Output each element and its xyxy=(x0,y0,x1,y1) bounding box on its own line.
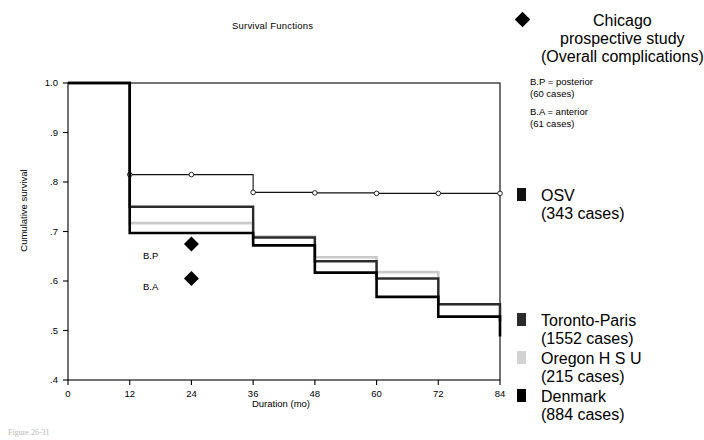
legend-oregon-line2: (215 cases) xyxy=(541,368,641,386)
legend-toronto-line2: (1552 cases) xyxy=(541,330,636,348)
legend-item-denmark: Denmark (884 cases) xyxy=(517,388,625,424)
series-oregon-h-s-u xyxy=(68,83,500,321)
square-swatch-icon xyxy=(517,388,541,402)
bp-definition-line2: (60 cases) xyxy=(530,88,593,100)
legend-denmark-line1: Denmark xyxy=(541,388,625,406)
legend-oregon-line1: Oregon H S U xyxy=(541,350,641,368)
y-tick-p9: .9 xyxy=(32,127,58,138)
diamond-icon xyxy=(517,12,541,25)
bp-definition-line1: B.P = posterior xyxy=(530,76,593,88)
square-swatch-icon xyxy=(517,312,541,326)
y-tick-p4: .4 xyxy=(32,374,58,385)
legend-item-chicago: Chicago prospective study (Overall compl… xyxy=(517,12,704,66)
x-tick-0: 0 xyxy=(55,388,81,399)
legend-item-toronto-paris: Toronto-Paris (1552 cases) xyxy=(517,312,636,348)
figure-caption: Figure 26-31 xyxy=(8,428,50,437)
osv-point-marker xyxy=(374,191,379,196)
legend-item-oregon-hsu: Oregon H S U (215 cases) xyxy=(517,350,641,386)
osv-point-marker xyxy=(189,172,194,177)
legend-chicago-line3: (Overall complications) xyxy=(541,48,704,66)
series-denmark xyxy=(68,83,500,336)
legend-ba-definition: B.A = anterior (61 cases) xyxy=(530,106,588,129)
legend-toronto-line1: Toronto-Paris xyxy=(541,312,636,330)
ba-definition-line2: (61 cases) xyxy=(530,118,588,130)
legend-bp-definition: B.P = posterior (60 cases) xyxy=(530,76,593,99)
series-osv xyxy=(68,83,500,193)
y-tick-1p0: 1.0 xyxy=(32,77,58,88)
x-tick-24: 24 xyxy=(178,388,204,399)
x-tick-72: 72 xyxy=(425,388,451,399)
y-tick-p6: .6 xyxy=(32,275,58,286)
osv-point-marker xyxy=(436,191,441,196)
x-tick-84: 84 xyxy=(487,388,513,399)
legend-osv-line2: (343 cases) xyxy=(541,205,625,223)
y-tick-p8: .8 xyxy=(32,176,58,187)
legend-osv-line1: OSV xyxy=(541,187,625,205)
osv-point-marker xyxy=(498,191,503,196)
y-tick-p5: .5 xyxy=(32,325,58,336)
ba-annotation-label: B.A xyxy=(143,281,158,292)
legend-chicago-line2: prospective study xyxy=(541,30,704,48)
ba-marker xyxy=(184,271,199,286)
square-swatch-icon xyxy=(517,187,541,201)
x-axis-title: Duration (mo) xyxy=(216,398,346,409)
bp-annotation-label: B.P xyxy=(143,250,158,261)
ba-definition-line1: B.A = anterior xyxy=(530,106,588,118)
x-tick-60: 60 xyxy=(364,388,390,399)
square-swatch-icon xyxy=(517,350,541,364)
series-toronto-paris xyxy=(68,83,500,322)
legend-chicago-line1: Chicago xyxy=(541,12,704,30)
legend-item-osv: OSV (343 cases) xyxy=(517,187,625,223)
x-tick-12: 12 xyxy=(117,388,143,399)
osv-point-marker xyxy=(313,191,318,196)
y-tick-p7: .7 xyxy=(32,226,58,237)
osv-point-marker xyxy=(251,190,256,195)
y-axis-title: Cumulative survival xyxy=(18,166,29,256)
legend-denmark-line2: (884 cases) xyxy=(541,406,625,424)
bp-marker xyxy=(184,236,199,251)
